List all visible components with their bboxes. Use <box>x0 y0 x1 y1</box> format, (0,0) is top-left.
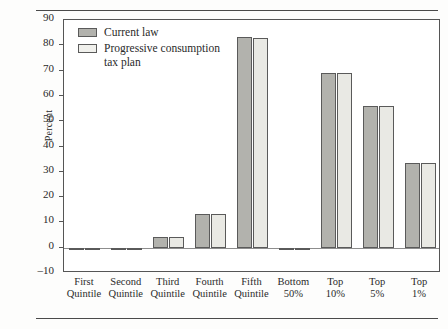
x-axis-label: Third Quintile <box>147 276 189 300</box>
legend-label: Current law <box>104 25 159 39</box>
bar <box>85 248 100 250</box>
chart-legend: Current lawProgressive consumption tax p… <box>78 25 220 71</box>
y-tick-label: 20 <box>43 188 54 200</box>
bar <box>421 163 436 248</box>
bar <box>195 214 210 248</box>
bar <box>405 163 420 248</box>
y-tick-label: 80 <box>43 36 54 48</box>
figure-bottom-rule <box>36 318 438 319</box>
bar <box>169 237 184 248</box>
y-tick-label: 90 <box>43 11 54 23</box>
y-tick-label: 30 <box>43 163 54 175</box>
bar <box>127 248 142 251</box>
bar <box>69 248 84 250</box>
bar <box>321 73 336 248</box>
x-axis-label: Bottom 50% <box>272 276 314 300</box>
y-tick-label: 50 <box>43 112 54 124</box>
y-tick-label: 10 <box>43 213 54 225</box>
legend-entry: Current law <box>78 25 220 39</box>
x-axis-label: Fifth Quintile <box>231 276 273 300</box>
x-axis-label: Second Quintile <box>105 276 147 300</box>
legend-label: Progressive consumption tax plan <box>104 41 220 69</box>
bar <box>279 248 294 250</box>
y-tick-label: 0 <box>49 239 55 251</box>
x-axis-label: First Quintile <box>63 276 105 300</box>
bar <box>363 106 378 248</box>
y-tick-label: 70 <box>43 62 54 74</box>
plot-area: Current lawProgressive consumption tax p… <box>63 19 440 272</box>
bar <box>211 214 226 248</box>
bar <box>379 106 394 248</box>
y-tick-label: –10 <box>38 264 55 276</box>
x-axis-label: Top 1% <box>398 276 440 300</box>
bar <box>253 38 268 248</box>
legend-swatch <box>78 28 97 37</box>
x-axis-label: Top 5% <box>356 276 398 300</box>
x-axis-label: Top 10% <box>314 276 356 300</box>
figure-top-rule <box>36 10 438 11</box>
bar <box>111 248 126 251</box>
bar <box>295 248 310 250</box>
x-axis-label: Fourth Quintile <box>189 276 231 300</box>
legend-swatch <box>78 44 97 53</box>
y-tick-label: 40 <box>43 138 54 150</box>
bar <box>237 37 252 247</box>
bar <box>337 73 352 248</box>
chart-figure: Percent 9080706050403020100–10 Current l… <box>0 0 448 329</box>
legend-entry: Progressive consumption tax plan <box>78 41 220 69</box>
y-tick-label: 60 <box>43 87 54 99</box>
bar <box>153 237 168 248</box>
